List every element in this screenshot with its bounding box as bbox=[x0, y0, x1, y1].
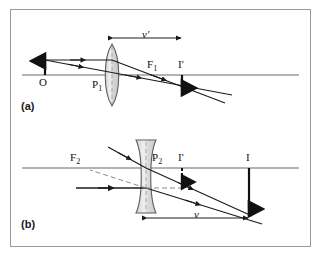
label-pole-p1-subscript: 1 bbox=[98, 84, 102, 93]
label-object-o: O bbox=[39, 76, 47, 88]
label-focus-f2-subscript: 2 bbox=[76, 157, 80, 166]
label-object-i-b: I bbox=[246, 151, 250, 163]
ray-diverged-b bbox=[146, 188, 262, 224]
virtual-ray-dashed-b bbox=[90, 170, 146, 188]
figure-root: O P1 F1 I' v' (a) F2 P2 I' I v (b) bbox=[0, 0, 321, 257]
label-distance-v-prime: v' bbox=[142, 28, 149, 40]
panel-a-group bbox=[22, 38, 299, 106]
label-distance-v: v bbox=[194, 208, 199, 220]
label-focus-f1-subscript: 1 bbox=[153, 64, 157, 73]
panel-label-a: (a) bbox=[21, 100, 34, 112]
label-image-i-prime-a: I' bbox=[178, 58, 184, 70]
ray-incident-to-pole-arrowhead-b bbox=[118, 153, 130, 160]
ray-refracted-through-focus-a bbox=[112, 60, 225, 103]
ray-diverged-arrowhead-b bbox=[185, 200, 199, 205]
label-focus-f1: F1 bbox=[147, 58, 157, 73]
label-pole-p2: P2 bbox=[152, 151, 162, 166]
ray-through-pole-arrowhead1-a bbox=[68, 64, 82, 67]
label-virtual-image-i-prime-b: I' bbox=[178, 151, 184, 163]
label-pole-p1: P1 bbox=[92, 78, 102, 93]
optics-ray-diagram bbox=[0, 0, 321, 257]
label-focus-f2: F2 bbox=[70, 151, 80, 166]
label-pole-p2-subscript: 2 bbox=[158, 157, 162, 166]
panel-label-b: (b) bbox=[21, 218, 35, 230]
ray-through-pole-b bbox=[146, 168, 252, 216]
